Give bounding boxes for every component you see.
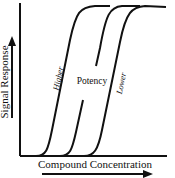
curve-label-lower: Lower	[114, 71, 129, 96]
curve-label-higher: Higher	[50, 65, 65, 92]
center-label-potency: Potency	[77, 76, 108, 86]
dose-response-diagram: Signal Response Compound Concentration P…	[0, 0, 175, 178]
y-axis-label: Signal Response	[0, 45, 10, 118]
x-axis-label: Compound Concentration	[38, 158, 152, 170]
x-axis-arrow-icon	[42, 170, 153, 178]
